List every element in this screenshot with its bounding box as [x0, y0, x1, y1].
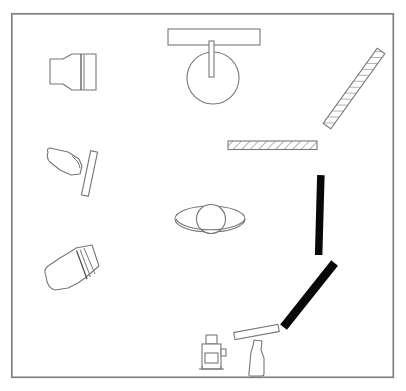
device-bottom-left — [199, 335, 226, 369]
hatched-strip-horizontal — [228, 141, 317, 150]
scene-canvas: Object Arrangement Line Drawing Paint br… — [0, 0, 406, 391]
black-bar-vertical — [315, 175, 325, 255]
blade-mid-left — [81, 151, 97, 196]
bottle-bottom-center — [249, 340, 264, 376]
hatched-strip-diagonal — [323, 48, 385, 129]
roller-assembly-top — [168, 29, 260, 104]
brush-lower-left — [45, 245, 99, 290]
bottle-mid-left — [47, 148, 82, 175]
thin-strip-bottom — [234, 324, 280, 339]
black-bar-diagonal — [280, 260, 338, 330]
ellipse-circle-center — [175, 205, 245, 234]
brush-top-left — [50, 54, 96, 90]
scene-drawing — [0, 0, 406, 391]
